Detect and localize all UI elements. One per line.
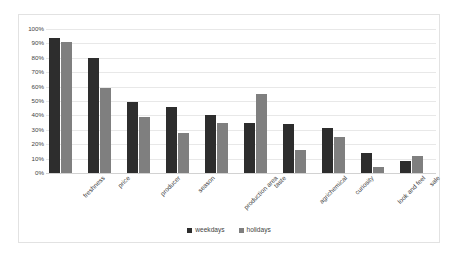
y-axis-tick-label: 90% [19, 40, 44, 46]
bar-weekdays-look-and-feel [361, 153, 372, 173]
bar-holidays-curiosity [334, 137, 345, 173]
bar-weekdays-taste [244, 123, 255, 173]
bar-group [85, 29, 124, 173]
x-axis-tick-label: price [117, 175, 131, 189]
legend-entry-weekdays[interactable]: weekdays [187, 227, 224, 234]
bar-weekdays-freshness [49, 38, 60, 173]
x-axis-tick-label: curiosity [353, 175, 374, 196]
bar-holidays-producer [139, 117, 150, 173]
bar-weekdays-production-area [205, 115, 216, 173]
bar-weekdays-agrichemical [283, 124, 294, 173]
bar-group [280, 29, 319, 173]
y-axis-tick-label: 0% [19, 170, 44, 176]
y-axis-tick-label: 50% [19, 98, 44, 104]
y-axis-tick-label: 30% [19, 127, 44, 133]
x-axis-tick-label: production area [243, 175, 279, 211]
bar-group [46, 29, 85, 173]
y-axis-tick-label: 10% [19, 155, 44, 161]
bar-group [319, 29, 358, 173]
bar-group [202, 29, 241, 173]
legend-label: weekdays [195, 227, 224, 234]
bar-group [241, 29, 280, 173]
gridline [46, 173, 436, 174]
x-axis-tick-label: sale [428, 175, 441, 188]
x-axis: freshnesspriceproducerseasonproduction a… [46, 175, 436, 233]
x-axis-tick-label: season [197, 175, 216, 194]
bar-holidays-agrichemical [295, 150, 306, 173]
x-axis-tick-label: agrichemical [318, 175, 348, 205]
bar-group [397, 29, 436, 173]
x-axis-tick-label: look and feel [396, 175, 426, 205]
bar-weekdays-price [88, 58, 99, 173]
bar-holidays-price [100, 88, 111, 173]
chart-figure: 0%10%20%30%40%50%60%70%80%90%100% freshn… [18, 14, 440, 243]
legend-label: holidays [247, 227, 271, 234]
bar-weekdays-sale [400, 161, 411, 173]
bar-holidays-season [178, 133, 189, 173]
bar-group [163, 29, 202, 173]
bar-group [358, 29, 397, 173]
plot-area [46, 29, 436, 173]
legend-swatch-icon [239, 228, 244, 233]
bar-weekdays-curiosity [322, 128, 333, 173]
bar-holidays-production-area [217, 123, 228, 173]
bar-weekdays-producer [127, 102, 138, 173]
y-axis-tick-label: 80% [19, 55, 44, 61]
legend-entry-holidays[interactable]: holidays [239, 227, 271, 234]
x-axis-tick-label: freshness [82, 175, 106, 199]
bar-holidays-taste [256, 94, 267, 173]
y-axis: 0%10%20%30%40%50%60%70%80%90%100% [19, 29, 44, 173]
bar-group [124, 29, 163, 173]
x-axis-tick-label: producer [159, 175, 181, 197]
bars-layer [46, 29, 436, 173]
y-axis-tick-label: 60% [19, 83, 44, 89]
bar-weekdays-season [166, 107, 177, 173]
y-axis-tick-label: 70% [19, 69, 44, 75]
y-axis-tick-label: 20% [19, 141, 44, 147]
y-axis-tick-label: 40% [19, 112, 44, 118]
y-axis-tick-label: 100% [19, 26, 44, 32]
bar-holidays-sale [412, 156, 423, 173]
legend-swatch-icon [187, 228, 192, 233]
chart-legend: weekdaysholidays [19, 227, 439, 234]
bar-holidays-look-and-feel [373, 167, 384, 173]
bar-holidays-freshness [61, 42, 72, 173]
